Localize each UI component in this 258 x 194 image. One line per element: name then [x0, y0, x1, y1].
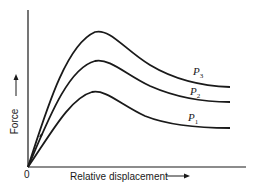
series-label-p2-base: P	[190, 85, 197, 97]
y-axis-label: Force	[0, 60, 30, 130]
series-label-p3-base: P	[193, 65, 200, 77]
y-axis-label-text: Force	[9, 92, 20, 152]
force-displacement-chart: Force 0 Relative displacement P3 P2 P1	[0, 0, 258, 194]
curve-p1	[28, 92, 230, 167]
series-label-p2-sub: 2	[197, 92, 201, 100]
x-axis-label: Relative displacement	[70, 171, 168, 182]
chart-plot-area	[0, 0, 258, 194]
x-label-arrow-head	[184, 174, 190, 179]
series-label-p1-base: P	[188, 111, 195, 123]
series-label-p1-sub: 1	[195, 118, 199, 126]
series-label-p1: P1	[188, 111, 198, 126]
series-label-p3-sub: 3	[200, 72, 204, 80]
series-label-p2: P2	[190, 85, 200, 100]
origin-label: 0	[24, 169, 30, 180]
series-label-p3: P3	[193, 65, 203, 80]
